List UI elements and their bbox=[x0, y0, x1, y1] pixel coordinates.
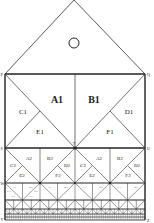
level-5 bbox=[5, 209, 145, 214]
label-b2-left: B2 bbox=[47, 156, 53, 161]
label-d3: D3 bbox=[34, 190, 38, 193]
label-y: Y bbox=[1, 217, 4, 222]
label-e2-right: E2 bbox=[89, 173, 95, 178]
label-c2-left: C2 bbox=[10, 163, 16, 168]
label-u: U bbox=[147, 146, 150, 151]
level-3 bbox=[5, 183, 145, 200]
label-a3: A3 bbox=[47, 186, 51, 189]
label-d1: D1 bbox=[125, 108, 134, 116]
label-b3: B3 bbox=[134, 186, 138, 189]
level-2 bbox=[5, 148, 145, 183]
level-2-labels: A2 B2 C2 D2 E2 F2 A2 B2 C2 D2 E2 F2 bbox=[10, 156, 140, 178]
label-b3: B3 bbox=[99, 186, 103, 189]
roof bbox=[5, 0, 145, 74]
label-q: Q bbox=[147, 72, 150, 77]
label-e3: E3 bbox=[11, 195, 15, 198]
label-b3: B3 bbox=[64, 186, 68, 189]
label-f3: F3 bbox=[30, 195, 34, 198]
label-f1: F1 bbox=[106, 128, 114, 136]
label-c1: C1 bbox=[19, 108, 28, 116]
label-d2-right: D2 bbox=[134, 163, 141, 168]
label-a3: A3 bbox=[117, 186, 121, 189]
label-b1: B1 bbox=[88, 94, 100, 105]
label-a1: A1 bbox=[51, 94, 63, 105]
label-a3: A3 bbox=[82, 186, 86, 189]
label-s: S bbox=[1, 146, 3, 151]
label-b2-right: B2 bbox=[117, 156, 123, 161]
label-a3: A3 bbox=[12, 186, 16, 189]
level-3-labels: A3 B3 C3 D3 E3 F3 A3 B3 A3 B3 A3 B3 bbox=[7, 186, 138, 198]
label-t: T bbox=[73, 141, 76, 146]
label-e2-left: E2 bbox=[19, 173, 25, 178]
label-a2-left: A2 bbox=[26, 156, 33, 161]
label-p: P bbox=[1, 72, 4, 77]
label-e1: E1 bbox=[36, 128, 44, 136]
label-b3: B3 bbox=[29, 186, 33, 189]
label-w: W bbox=[1, 181, 5, 186]
roof-circle-icon bbox=[69, 38, 79, 48]
label-f2-left: F2 bbox=[55, 173, 61, 178]
label-z: Z bbox=[147, 218, 150, 223]
label-f2-right: F2 bbox=[125, 173, 131, 178]
label-c3: C3 bbox=[7, 190, 11, 193]
label-d2-left: D2 bbox=[64, 163, 71, 168]
level-4 bbox=[5, 200, 145, 209]
subdivision-diagram: A1 B1 C1 D1 E1 F1 A2 B2 C2 D2 E2 F2 A2 B… bbox=[0, 0, 154, 223]
label-c2-right: C2 bbox=[80, 163, 86, 168]
label-a2-right: A2 bbox=[96, 156, 103, 161]
